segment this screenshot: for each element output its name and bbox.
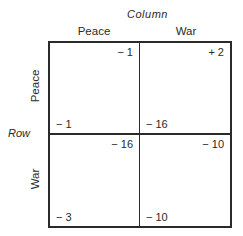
column-payoff: − 10 [202, 138, 224, 150]
row-payoff: − 1 [56, 118, 72, 130]
column-payoff: − 1 [117, 46, 133, 58]
column-player-label: Column [0, 8, 243, 20]
row-payoff: − 10 [146, 211, 168, 223]
row-payoff: − 16 [146, 118, 168, 130]
column-payoff: + 2 [208, 46, 224, 58]
column-strategy-war: War [140, 25, 232, 37]
row-strategy-war: War [29, 133, 41, 225]
cell-peace-war: + 2 − 16 [140, 43, 230, 135]
row-strategy-peace: Peace [29, 40, 41, 132]
row-payoff: − 3 [56, 211, 72, 223]
payoff-matrix: − 1 − 1 + 2 − 16 − 16 − 3 − 10 − 10 [48, 41, 232, 228]
row-player-label: Row [8, 127, 30, 139]
cell-war-peace: − 16 − 3 [50, 135, 140, 227]
column-strategy-peace: Peace [48, 25, 140, 37]
column-payoff: − 16 [111, 138, 133, 150]
cell-war-war: − 10 − 10 [140, 135, 230, 227]
cell-peace-peace: − 1 − 1 [50, 43, 140, 135]
